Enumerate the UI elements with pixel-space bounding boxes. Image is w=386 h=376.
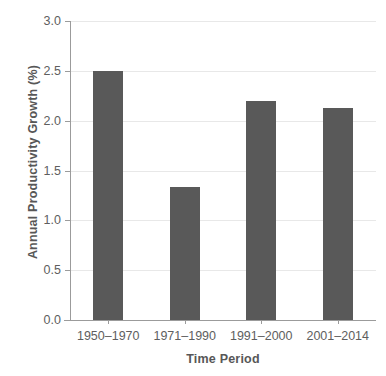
y-tick-mark (65, 220, 71, 221)
bar-chart-figure: Annual Productivity Growth (%) 0.00.51.0… (0, 0, 386, 376)
x-axis-title: Time Period (70, 352, 376, 366)
y-tick-mark (65, 121, 71, 122)
y-tick-label: 1.0 (44, 214, 61, 227)
y-tick-label: 2.5 (44, 65, 61, 78)
plot-area: 0.00.51.01.52.02.53.01950–19701971–19901… (70, 21, 376, 320)
x-tick-label: 2001–2014 (306, 330, 369, 343)
y-tick-mark (65, 21, 71, 22)
y-tick-label: 0.0 (44, 314, 61, 327)
x-tick-mark (338, 320, 339, 324)
bar (93, 71, 123, 320)
y-tick-mark (65, 320, 71, 321)
y-axis-title: Annual Productivity Growth (%) (22, 2, 44, 322)
x-tick-mark (108, 320, 109, 324)
bar (170, 187, 200, 320)
y-tick-label: 2.0 (44, 114, 61, 127)
y-gridline (70, 21, 376, 22)
x-axis-spine (64, 320, 376, 321)
x-tick-label: 1950–1970 (77, 330, 140, 343)
x-tick-mark (185, 320, 186, 324)
y-tick-mark (65, 270, 71, 271)
x-tick-label: 1971–1990 (153, 330, 216, 343)
y-tick-label: 3.0 (44, 15, 61, 28)
x-tick-mark (261, 320, 262, 324)
y-tick-label: 1.5 (44, 164, 61, 177)
x-tick-label: 1991–2000 (230, 330, 293, 343)
bar (323, 108, 353, 320)
y-tick-label: 0.5 (44, 264, 61, 277)
bar (246, 101, 276, 320)
y-tick-mark (65, 171, 71, 172)
y-tick-mark (65, 71, 71, 72)
